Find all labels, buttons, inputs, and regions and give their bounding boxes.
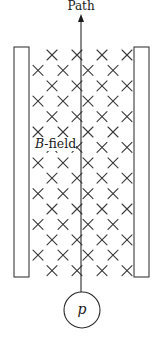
field-into-page-icon — [33, 65, 43, 75]
particle-label: p — [78, 301, 87, 317]
field-into-page-icon — [122, 235, 132, 245]
path-label: Path — [67, 0, 95, 13]
field-into-page-icon — [58, 189, 68, 199]
field-into-page-icon — [83, 219, 93, 229]
field-into-page-icon — [108, 65, 118, 75]
field-into-page-icon — [122, 142, 132, 152]
field-into-page-icon — [97, 266, 107, 276]
field-into-page-icon — [47, 173, 57, 183]
field-into-page-icon — [97, 235, 107, 245]
field-into-page-icon — [108, 158, 118, 168]
right-plate — [134, 47, 149, 277]
field-into-page-icon — [108, 96, 118, 106]
field-into-page-icon — [83, 96, 93, 106]
field-into-page-icon — [108, 189, 118, 199]
b-field-symbol: B — [34, 136, 44, 151]
field-into-page-icon — [83, 127, 93, 137]
field-into-page-icon — [47, 204, 57, 214]
field-into-page-icon — [83, 250, 93, 260]
field-into-page-icon — [58, 158, 68, 168]
field-into-page-icon — [33, 189, 43, 199]
field-into-page-icon — [58, 219, 68, 229]
b-field-suffix: -field — [44, 136, 76, 151]
field-into-page-icon — [108, 219, 118, 229]
field-into-page-icon — [58, 96, 68, 106]
field-into-page-icon — [47, 112, 57, 122]
arrow-up-icon — [78, 14, 84, 22]
field-into-page-icon — [97, 204, 107, 214]
field-into-page-icon — [47, 81, 57, 91]
field-into-page-icon — [108, 127, 118, 137]
field-into-page-icon — [122, 204, 132, 214]
field-into-page-icon — [47, 50, 57, 60]
field-into-page-icon — [97, 81, 107, 91]
field-into-page-icon — [122, 266, 132, 276]
field-into-page-icon — [58, 65, 68, 75]
field-into-page-icon — [108, 250, 118, 260]
field-into-page-icon — [97, 50, 107, 60]
field-into-page-icon — [33, 158, 43, 168]
field-into-page-icon — [122, 173, 132, 183]
field-into-page-icon — [97, 112, 107, 122]
field-into-page-icon — [47, 266, 57, 276]
field-into-page-icon — [83, 65, 93, 75]
b-field-label: B-field — [34, 136, 76, 151]
magnetic-field-diagram: Path B-field p — [0, 0, 158, 346]
field-into-page-icon — [97, 173, 107, 183]
field-into-page-icon — [58, 250, 68, 260]
field-into-page-icon — [97, 142, 107, 152]
field-into-page-icon — [122, 81, 132, 91]
field-into-page-icon — [33, 96, 43, 106]
left-plate — [14, 47, 29, 277]
field-into-page-icon — [47, 235, 57, 245]
field-into-page-icon — [33, 219, 43, 229]
b-field-crosses — [33, 50, 132, 276]
field-into-page-icon — [83, 158, 93, 168]
field-into-page-icon — [83, 189, 93, 199]
field-into-page-icon — [122, 112, 132, 122]
field-into-page-icon — [122, 50, 132, 60]
field-into-page-icon — [33, 250, 43, 260]
